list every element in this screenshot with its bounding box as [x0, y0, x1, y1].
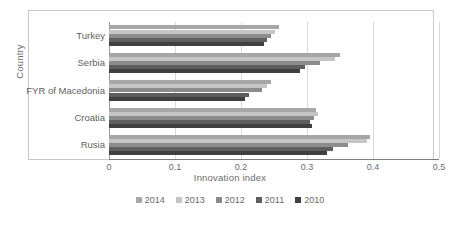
category-label: FYR of Macedonia: [0, 86, 109, 96]
category-label: Rusia: [0, 140, 109, 150]
legend-label: 2012: [225, 195, 245, 205]
category-label: Turkey: [0, 31, 109, 41]
plot-frame: 00.10.20.30.40.5TurkeySerbiaFYR of Maced…: [28, 10, 434, 160]
bar: [109, 69, 300, 73]
x-tick-label: 0: [89, 162, 129, 172]
legend-label: 2014: [145, 195, 165, 205]
x-axis-title: Innovation index: [0, 172, 460, 183]
bar-group: Turkey: [109, 25, 439, 46]
legend-swatch-icon: [136, 197, 142, 203]
legend-item: 2011: [256, 195, 284, 205]
legend-swatch-icon: [295, 197, 301, 203]
legend-item: 2012: [216, 195, 245, 205]
bar-group: FYR of Macedonia: [109, 80, 439, 101]
gridline: [439, 22, 440, 159]
bar-group: Rusia: [109, 135, 439, 156]
bar: [109, 97, 245, 101]
x-tick-label: 0.1: [155, 162, 195, 172]
legend-swatch-icon: [216, 197, 222, 203]
legend-item: 2013: [176, 195, 205, 205]
innovation-index-bar-chart: Country 00.10.20.30.40.5TurkeySerbiaFYR …: [0, 0, 460, 231]
bar-group: Croatia: [109, 108, 439, 129]
legend-label: 2011: [265, 195, 284, 205]
legend-label: 2010: [304, 195, 324, 205]
chart-legend: 20142013201220112010: [0, 195, 460, 205]
x-axis-line: [109, 159, 439, 160]
bar: [109, 151, 327, 155]
category-label: Serbia: [0, 58, 109, 68]
x-tick-label: 0.4: [353, 162, 393, 172]
bar-group: Serbia: [109, 53, 439, 74]
legend-swatch-icon: [176, 197, 182, 203]
x-tick-label: 0.3: [287, 162, 327, 172]
x-tick-label: 0.5: [419, 162, 459, 172]
legend-item: 2010: [295, 195, 324, 205]
legend-swatch-icon: [256, 197, 262, 203]
legend-item: 2014: [136, 195, 165, 205]
category-label: Croatia: [0, 113, 109, 123]
legend-label: 2013: [185, 195, 205, 205]
bar: [109, 42, 264, 46]
plot-area: 00.10.20.30.40.5TurkeySerbiaFYR of Maced…: [109, 22, 439, 159]
x-tick-label: 0.2: [221, 162, 261, 172]
bar: [109, 124, 312, 128]
